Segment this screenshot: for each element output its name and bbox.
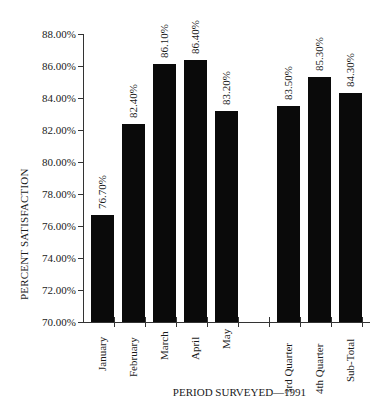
bar-value-label: 84.30%: [344, 53, 356, 87]
bar: [308, 77, 331, 322]
x-tick-mark: [269, 317, 270, 327]
x-tick-mark: [176, 317, 177, 327]
x-tick-mark: [114, 317, 115, 327]
y-axis-line: [83, 35, 84, 323]
x-tick-mark: [300, 317, 301, 327]
x-category-label: Sub-Total: [344, 339, 356, 382]
bar-value-label: 83.50%: [282, 66, 294, 100]
y-tick-label: 76.00%: [6, 220, 76, 232]
y-tick-label: 86.00%: [6, 60, 76, 72]
x-category-label: April: [189, 337, 201, 360]
y-tick-label: 78.00%: [6, 188, 76, 200]
y-tick-label: 82.00%: [6, 124, 76, 136]
y-tick-mark: [78, 290, 84, 291]
x-tick-mark: [207, 317, 208, 327]
x-category-label: January: [96, 337, 108, 371]
bar: [122, 124, 145, 322]
y-tick-label: 80.00%: [6, 156, 76, 168]
bar: [277, 106, 300, 322]
x-tick-mark: [145, 317, 146, 327]
y-tick-label: 74.00%: [6, 252, 76, 264]
x-axis-line: [83, 322, 370, 323]
bar-chart: PERCENT SATISFACTION 70.00%72.00%74.00%7…: [0, 0, 389, 415]
y-tick-label: 70.00%: [6, 316, 76, 328]
x-category-label: March: [158, 331, 170, 360]
bar-value-label: 85.30%: [313, 37, 325, 71]
x-tick-mark: [362, 317, 363, 327]
y-tick-mark: [78, 322, 84, 323]
bar: [153, 64, 176, 322]
x-category-label: February: [127, 337, 139, 377]
bar: [339, 93, 362, 322]
bar-value-label: 82.40%: [127, 84, 139, 118]
bar: [91, 215, 114, 322]
y-tick-mark: [78, 194, 84, 195]
x-axis-title: PERIOD SURVEYED—1991: [0, 386, 389, 398]
y-tick-label: 88.00%: [6, 28, 76, 40]
y-tick-mark: [78, 66, 84, 67]
y-tick-mark: [78, 258, 84, 259]
bar-value-label: 86.40%: [189, 20, 201, 54]
y-tick-mark: [78, 226, 84, 227]
bar-value-label: 76.70%: [96, 175, 108, 209]
bar-value-label: 83.20%: [220, 71, 232, 105]
y-tick-mark: [78, 162, 84, 163]
y-tick-label: 84.00%: [6, 92, 76, 104]
x-tick-mark: [331, 317, 332, 327]
x-tick-mark: [238, 317, 239, 327]
y-tick-mark: [78, 98, 84, 99]
x-category-label: May: [220, 329, 232, 349]
y-tick-label: 72.00%: [6, 284, 76, 296]
bar: [184, 60, 207, 322]
y-tick-mark: [78, 34, 84, 35]
bar-value-label: 86.10%: [158, 24, 170, 58]
bar: [215, 111, 238, 322]
y-tick-mark: [78, 130, 84, 131]
